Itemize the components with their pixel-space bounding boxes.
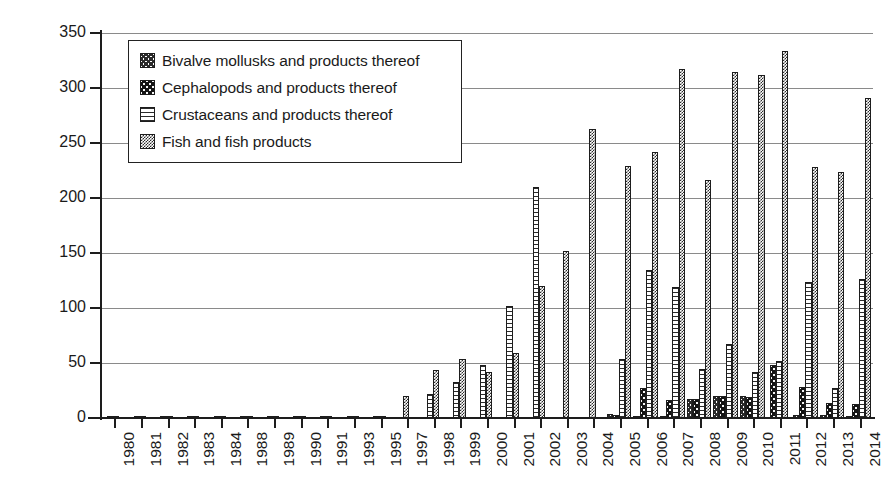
legend-item-0[interactable]: Bivalve mollusks and products thereof	[129, 47, 461, 74]
bar-group-2011	[767, 33, 794, 418]
x-tick-label-2004: 2004	[599, 432, 617, 485]
x-tick-mark-1990	[301, 419, 303, 428]
x-tick-label-1990: 1990	[307, 432, 325, 485]
bar-2008-fish	[705, 180, 711, 418]
bar-1989-fish	[273, 416, 279, 418]
bar-2001-fish	[513, 353, 519, 418]
x-tick-label-2011: 2011	[786, 432, 804, 485]
x-tick-label-2013: 2013	[839, 432, 857, 485]
bar-group-2000	[474, 33, 501, 418]
x-tick-label-2007: 2007	[679, 432, 697, 485]
bar-group-2008	[687, 33, 714, 418]
x-tick-label-1988: 1988	[253, 432, 271, 485]
y-tick-label-50: 50	[38, 353, 86, 371]
x-tick-label-1991: 1991	[333, 432, 351, 485]
x-tick-mark-1991	[327, 419, 329, 428]
x-tick-mark-2009	[727, 419, 729, 428]
x-tick-label-1982: 1982	[174, 432, 192, 485]
x-tick-label-1995: 1995	[387, 432, 405, 485]
x-tick-label-2012: 2012	[812, 432, 830, 485]
x-tick-mark-2002	[540, 419, 542, 428]
bar-group-2003	[554, 33, 581, 418]
bar-group-1980	[101, 33, 128, 418]
bar-1997-fish	[403, 396, 409, 418]
x-tick-mark-1983	[194, 419, 196, 428]
bar-group-2014	[846, 33, 873, 418]
x-tick-label-2010: 2010	[759, 432, 777, 485]
bar-2000-fish	[486, 372, 492, 418]
bar-2012-fish	[812, 167, 818, 418]
y-tick-label-250: 250	[38, 133, 86, 151]
bar-1990-fish	[300, 416, 306, 418]
y-tick-label-200: 200	[38, 188, 86, 206]
x-tick-label-1997: 1997	[413, 432, 431, 485]
bar-1980-fish	[113, 416, 119, 418]
x-tick-label-2008: 2008	[706, 432, 724, 485]
x-tick-mark-2006	[647, 419, 649, 428]
x-tick-mark-2004	[593, 419, 595, 428]
x-tick-mark-1999	[460, 419, 462, 428]
bar-group-2001	[500, 33, 527, 418]
bar-group-2009	[713, 33, 740, 418]
x-tick-label-1981: 1981	[147, 432, 165, 485]
x-tick-mark-1995	[381, 419, 383, 428]
x-tick-mark-2001	[514, 419, 516, 428]
bar-group-2005	[607, 33, 634, 418]
bar-1983-fish	[193, 416, 199, 418]
x-tick-mark-1989	[274, 419, 276, 428]
bar-2010-fish	[758, 75, 764, 418]
x-tick-mark-1981	[141, 419, 143, 428]
x-tick-label-1984: 1984	[227, 432, 245, 485]
legend-label-1: Cephalopods and products thereof	[162, 79, 397, 97]
bar-2002-fish	[539, 286, 545, 418]
x-tick-label-1983: 1983	[200, 432, 218, 485]
legend-label-3: Fish and fish products	[162, 133, 311, 151]
bar-1993-fish	[353, 416, 359, 418]
bar-2011-fish	[782, 51, 788, 418]
bar-1982-fish	[167, 416, 173, 418]
bar-2006-fish	[652, 152, 658, 418]
legend-swatch-icon-2	[140, 107, 155, 122]
x-tick-mark-2014	[860, 419, 862, 428]
x-tick-label-2000: 2000	[493, 432, 511, 485]
x-tick-label-1993: 1993	[360, 432, 378, 485]
bar-1981-fish	[140, 416, 146, 418]
x-tick-mark-1993	[354, 419, 356, 428]
y-tick-label-0: 0	[38, 408, 86, 426]
bar-group-2010	[740, 33, 767, 418]
bar-2014-fish	[865, 98, 871, 418]
x-tick-mark-2010	[753, 419, 755, 428]
bar-2005-fish	[625, 166, 631, 418]
x-tick-mark-2000	[487, 419, 489, 428]
y-tick-label-150: 150	[38, 243, 86, 261]
x-tick-mark-1980	[114, 419, 116, 428]
bar-group-2007	[660, 33, 687, 418]
y-tick-label-100: 100	[38, 298, 86, 316]
bar-1995-fish	[380, 416, 386, 418]
x-tick-mark-1982	[168, 419, 170, 428]
x-tick-label-2003: 2003	[573, 432, 591, 485]
bar-2007-fish	[679, 69, 685, 418]
x-tick-mark-2013	[833, 419, 835, 428]
x-tick-mark-2011	[780, 419, 782, 428]
bar-chart: Number of notifications 0501001502002503…	[0, 0, 885, 485]
legend-item-1[interactable]: Cephalopods and products thereof	[129, 74, 461, 101]
legend-label-2: Crustaceans and products thereof	[162, 106, 392, 124]
legend-item-3[interactable]: Fish and fish products	[129, 128, 461, 155]
x-tick-label-2002: 2002	[546, 432, 564, 485]
bar-group-2013	[820, 33, 847, 418]
x-tick-mark-1997	[407, 419, 409, 428]
x-tick-label-1998: 1998	[440, 432, 458, 485]
x-tick-label-1999: 1999	[466, 432, 484, 485]
bar-group-2012	[793, 33, 820, 418]
x-tick-label-1989: 1989	[280, 432, 298, 485]
legend-label-0: Bivalve mollusks and products thereof	[162, 52, 419, 70]
x-tick-mark-2007	[673, 419, 675, 428]
legend-swatch-icon-3	[140, 134, 155, 149]
bar-1991-fish	[326, 416, 332, 418]
x-tick-label-2006: 2006	[653, 432, 671, 485]
legend-item-2[interactable]: Crustaceans and products thereof	[129, 101, 461, 128]
bar-2009-fish	[732, 72, 738, 419]
x-tick-label-2005: 2005	[626, 432, 644, 485]
legend-swatch-icon-0	[140, 53, 155, 68]
